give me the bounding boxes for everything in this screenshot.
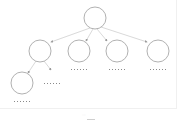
figure-caption: ···· — [82, 113, 86, 117]
node-child-4[interactable] — [147, 40, 169, 62]
nodes — [11, 7, 169, 94]
edge-child1-grandchild — [28, 61, 36, 73]
caption-underline — [87, 119, 95, 120]
label-child-3 — [109, 69, 125, 70]
edge-root-child-1 — [51, 28, 90, 42]
tree-diagram — [0, 0, 181, 125]
edge-root-child-3 — [97, 29, 107, 41]
label-child-2 — [71, 69, 87, 70]
node-child-1[interactable] — [29, 40, 51, 62]
label-leaf-stub — [44, 83, 60, 84]
edge-child1-leaf — [44, 61, 51, 70]
node-child-3[interactable] — [106, 40, 128, 62]
node-child-2[interactable] — [68, 40, 90, 62]
node-root[interactable] — [84, 7, 106, 29]
edge-root-child-4 — [101, 27, 147, 42]
edge-root-child-2 — [86, 29, 93, 41]
label-child-4 — [150, 69, 166, 70]
label-grandchild-1 — [14, 101, 30, 102]
node-grandchild-1[interactable] — [11, 72, 33, 94]
node-labels — [14, 69, 166, 102]
